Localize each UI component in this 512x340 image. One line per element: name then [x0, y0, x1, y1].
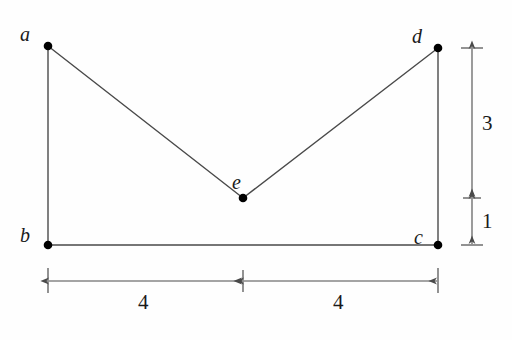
vertex-dot-a	[44, 42, 53, 51]
vertex-dot-c	[434, 241, 443, 250]
vertex-label-d: d	[412, 26, 422, 46]
vertex-label-e: e	[232, 172, 241, 192]
vertex-dot-d	[434, 44, 443, 53]
vertex-label-c: c	[414, 227, 423, 247]
dim-label-lower-height: 1	[482, 211, 493, 232]
vertex-dots	[44, 42, 443, 250]
vertex-dot-e	[239, 194, 248, 203]
vertex-label-a: a	[20, 24, 30, 44]
vertex-dot-b	[44, 241, 53, 250]
edge-a-e	[48, 46, 243, 198]
geometry-figure: a d e b c 4 4 3 1	[0, 0, 512, 340]
dim-label-left-span: 4	[138, 292, 149, 313]
dim-label-right-span: 4	[333, 292, 344, 313]
figure-canvas	[0, 0, 512, 340]
dim-label-upper-height: 3	[482, 113, 493, 134]
vertex-label-b: b	[20, 225, 30, 245]
edge-e-d	[243, 48, 438, 198]
